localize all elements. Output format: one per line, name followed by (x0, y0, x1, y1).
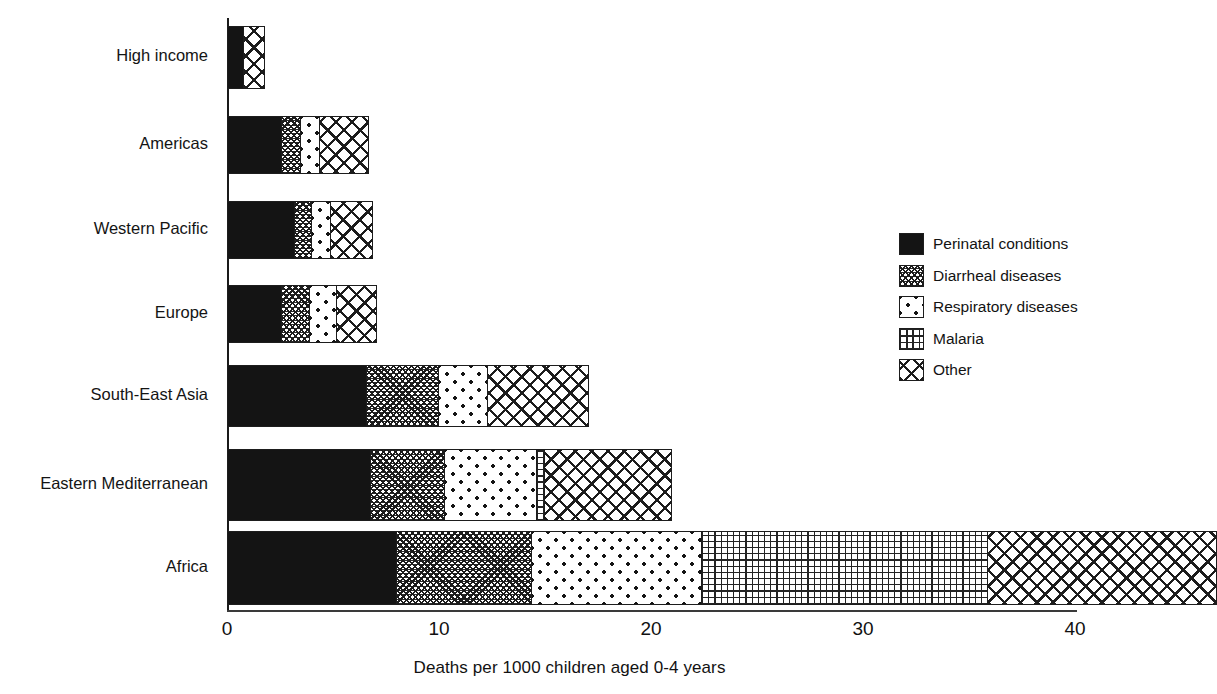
category-label: South-East Asia (0, 385, 218, 404)
category-label-text: Eastern Mediterranean (40, 474, 218, 492)
bar-segment (301, 116, 320, 174)
category-label: High income (0, 46, 218, 65)
bar-row (227, 449, 672, 521)
bar-row (227, 285, 377, 343)
bar-segment (397, 531, 533, 605)
stacked-bar (227, 531, 1217, 605)
legend-item: Perinatal conditions (899, 233, 1078, 255)
legend-item: Other (899, 359, 1078, 381)
legend-swatch-icon (899, 296, 924, 318)
stacked-bar (227, 116, 369, 174)
legend-swatch-icon (899, 233, 924, 255)
bar-segment (227, 531, 397, 605)
bar-segment (545, 449, 672, 521)
bar-segment (371, 449, 445, 521)
bar-segment (227, 365, 367, 427)
category-label-text: Americas (139, 134, 218, 152)
legend-label: Perinatal conditions (933, 235, 1068, 253)
bar-segment (310, 285, 338, 343)
bar-segment (282, 285, 310, 343)
bar-segment (244, 26, 265, 89)
category-label-text: High income (116, 46, 218, 64)
category-label: Europe (0, 303, 218, 322)
legend-swatch-icon (899, 328, 924, 350)
legend-label: Malaria (933, 330, 984, 348)
bar-row (227, 26, 265, 89)
category-label: Eastern Mediterranean (0, 474, 218, 493)
category-label-text: Africa (166, 557, 218, 575)
bar-segment (282, 116, 301, 174)
stacked-bar (227, 26, 265, 89)
bar-segment (337, 285, 377, 343)
stacked-bar (227, 449, 672, 521)
bar-segment (439, 365, 488, 427)
bar-segment (227, 26, 244, 89)
legend-item: Malaria (899, 328, 1078, 350)
bar-segment (227, 116, 282, 174)
bar-segment (537, 449, 545, 521)
category-label: Americas (0, 134, 218, 153)
bar-segment (988, 531, 1217, 605)
bar-segment (295, 201, 312, 259)
stacked-bar (227, 285, 377, 343)
legend-item: Respiratory diseases (899, 296, 1078, 318)
category-label: Africa (0, 557, 218, 576)
legend: Perinatal conditionsDiarrheal diseasesRe… (899, 233, 1078, 381)
x-axis-line (227, 610, 1077, 612)
bar-segment (320, 116, 369, 174)
stacked-bar (227, 201, 373, 259)
x-tick-label: 40 (1064, 618, 1085, 640)
legend-item: Diarrheal diseases (899, 265, 1078, 287)
x-tick-label: 10 (428, 618, 449, 640)
bar-segment (227, 449, 371, 521)
bar-row (227, 365, 589, 427)
legend-label: Diarrheal diseases (933, 267, 1061, 285)
legend-swatch-icon (899, 359, 924, 381)
bar-segment (532, 531, 702, 605)
bar-segment (702, 531, 988, 605)
bar-segment (312, 201, 331, 259)
x-tick-label: 0 (222, 618, 233, 640)
bar-segment (331, 201, 373, 259)
bar-segment (488, 365, 590, 427)
x-axis-title: Deaths per 1000 children aged 0-4 years (0, 658, 1139, 678)
category-label-text: Western Pacific (94, 219, 218, 237)
category-label-text: South-East Asia (91, 385, 218, 403)
bar-segment (445, 449, 536, 521)
category-label: Western Pacific (0, 219, 218, 238)
legend-swatch-icon (899, 265, 924, 287)
x-tick-label: 30 (852, 618, 873, 640)
category-label-text: Europe (155, 303, 218, 321)
bar-segment (367, 365, 439, 427)
bar-row (227, 201, 373, 259)
bar-segment (227, 201, 295, 259)
x-tick-label: 20 (640, 618, 661, 640)
bar-row (227, 116, 369, 174)
legend-label: Respiratory diseases (933, 298, 1078, 316)
legend-label: Other (933, 361, 972, 379)
bar-segment (227, 285, 282, 343)
stacked-bar (227, 365, 589, 427)
bar-row (227, 531, 1217, 605)
